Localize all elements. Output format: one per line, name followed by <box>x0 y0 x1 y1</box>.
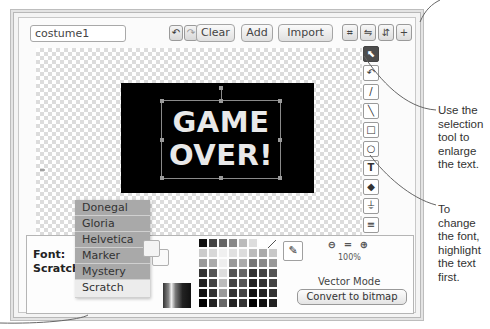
reshape-tool-button[interactable]: ↶ <box>363 65 379 81</box>
annotation-font-tip: To change the font, highlight the text f… <box>438 203 490 284</box>
resize-handle[interactable] <box>160 176 164 180</box>
palette-color[interactable] <box>219 299 227 307</box>
font-option-scratch[interactable]: Scratch <box>75 280 150 298</box>
palette-color[interactable] <box>259 259 267 267</box>
font-option-gloria[interactable]: Gloria <box>75 216 150 232</box>
palette-color[interactable] <box>199 239 207 247</box>
palette-color[interactable] <box>219 269 227 277</box>
palette-color[interactable] <box>209 269 217 277</box>
set-center-icon[interactable]: + <box>396 24 412 41</box>
palette-color[interactable] <box>239 289 247 297</box>
palette-color[interactable] <box>229 269 237 277</box>
palette-color[interactable] <box>269 259 277 267</box>
forward-layer-button[interactable]: ≡ <box>363 217 379 233</box>
palette-color[interactable] <box>269 269 277 277</box>
palette-color[interactable] <box>239 249 247 257</box>
zoom-out-icon[interactable]: ⊖ <box>326 239 338 251</box>
rotation-handle[interactable] <box>219 86 223 90</box>
palette-color[interactable] <box>209 259 217 267</box>
resize-handle[interactable] <box>219 99 223 103</box>
palette-color[interactable] <box>249 259 257 267</box>
palette-color[interactable] <box>239 299 247 307</box>
palette-color[interactable] <box>209 289 217 297</box>
convert-to-bitmap-button[interactable]: Convert to bitmap <box>297 289 407 305</box>
crop-icon[interactable]: ⌗ <box>342 24 358 41</box>
palette-color[interactable] <box>199 279 207 287</box>
palette-color[interactable] <box>229 239 237 247</box>
zoom-controls: ⊖ = ⊕ <box>326 239 370 251</box>
selection-box[interactable]: GAME OVER! <box>161 100 281 179</box>
palette-color[interactable] <box>209 239 217 247</box>
clear-button[interactable]: Clear <box>196 24 235 42</box>
palette-color[interactable] <box>229 299 237 307</box>
text-tool-button[interactable]: T <box>363 160 379 176</box>
palette-color[interactable] <box>209 279 217 287</box>
palette-color[interactable] <box>249 289 257 297</box>
import-button[interactable]: Import <box>278 24 333 42</box>
palette-color[interactable] <box>219 259 227 267</box>
palette-color[interactable] <box>259 269 267 277</box>
palette-color[interactable] <box>219 289 227 297</box>
palette-color[interactable] <box>229 289 237 297</box>
palette-color[interactable] <box>229 279 237 287</box>
palette-color[interactable] <box>249 239 257 247</box>
palette-color[interactable] <box>269 299 277 307</box>
palette-color[interactable] <box>219 279 227 287</box>
palette-color[interactable] <box>239 239 247 247</box>
eyedropper-icon[interactable]: ✎ <box>283 241 303 261</box>
ellipse-tool-button[interactable]: ○ <box>363 141 379 157</box>
resize-handle[interactable] <box>278 176 282 180</box>
font-option-marker[interactable]: Marker <box>75 248 150 264</box>
line-tool-button[interactable]: ╲ <box>363 103 379 119</box>
palette-color[interactable] <box>199 259 207 267</box>
font-label: Font: <box>33 248 65 261</box>
palette-color[interactable] <box>249 249 257 257</box>
palette-color[interactable] <box>259 239 267 247</box>
palette-color[interactable] <box>259 249 267 257</box>
palette-color[interactable] <box>239 279 247 287</box>
palette-color[interactable] <box>219 249 227 257</box>
stamp-tool-button[interactable]: ⏚ <box>363 198 379 214</box>
select-tool-button[interactable]: ⬉ <box>363 46 379 62</box>
palette-color[interactable] <box>229 249 237 257</box>
palette-color[interactable] <box>259 299 267 307</box>
font-option-helvetica[interactable]: Helvetica <box>75 232 150 248</box>
tool-palette: ⬉ ↶ / ╲ □ ○ T ◆ ⏚ ≡ ≡ <box>363 46 379 252</box>
font-option-donegal[interactable]: Donegal <box>75 200 150 216</box>
palette-color[interactable] <box>269 279 277 287</box>
add-button[interactable]: Add <box>241 24 273 42</box>
flip-horizontal-icon[interactable]: ⇋ <box>360 24 376 41</box>
palette-color[interactable] <box>219 239 227 247</box>
palette-color[interactable] <box>209 299 217 307</box>
resize-handle[interactable] <box>160 99 164 103</box>
font-option-mystery[interactable]: Mystery <box>75 264 150 280</box>
palette-color[interactable] <box>239 269 247 277</box>
resize-handle[interactable] <box>219 176 223 180</box>
palette-color[interactable] <box>259 279 267 287</box>
undo-icon[interactable]: ↶ <box>169 25 183 41</box>
flip-vertical-icon[interactable]: ⇵ <box>378 24 394 41</box>
palette-color[interactable] <box>239 259 247 267</box>
palette-color[interactable] <box>199 289 207 297</box>
palette-color[interactable] <box>249 269 257 277</box>
resize-handle[interactable] <box>278 99 282 103</box>
costume-name-input[interactable]: costume1 <box>30 25 126 42</box>
palette-color[interactable] <box>269 289 277 297</box>
palette-color[interactable] <box>229 259 237 267</box>
primary-color-swatch[interactable] <box>143 240 160 257</box>
palette-color[interactable] <box>199 249 207 257</box>
palette-color[interactable] <box>269 249 277 257</box>
rectangle-tool-button[interactable]: □ <box>363 122 379 138</box>
zoom-in-icon[interactable]: ⊕ <box>358 239 370 251</box>
no-color-icon[interactable] <box>267 239 277 249</box>
zoom-reset-icon[interactable]: = <box>342 239 354 251</box>
palette-color[interactable] <box>199 269 207 277</box>
palette-color[interactable] <box>199 299 207 307</box>
palette-color[interactable] <box>249 279 257 287</box>
palette-color[interactable] <box>259 289 267 297</box>
gradient-swatch[interactable] <box>163 283 191 308</box>
fill-tool-button[interactable]: ◆ <box>363 179 379 195</box>
pencil-tool-button[interactable]: / <box>363 84 379 100</box>
palette-color[interactable] <box>209 249 217 257</box>
palette-color[interactable] <box>249 299 257 307</box>
